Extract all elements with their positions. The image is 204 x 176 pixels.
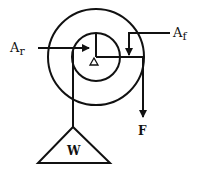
fulcrum-triangle <box>90 58 98 65</box>
weight-label: W <box>66 144 81 158</box>
af-label: Af <box>172 25 187 43</box>
ar-label: Ar <box>9 40 25 58</box>
wheel-axle-diagram: Ar Af F W <box>0 0 204 176</box>
force-label: F <box>138 124 147 138</box>
af-arrow <box>129 33 170 55</box>
